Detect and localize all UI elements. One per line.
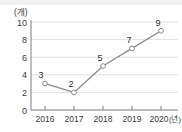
y-tick-label-8: 8 xyxy=(22,35,27,45)
data-label-2017: 2 xyxy=(68,79,73,89)
data-label-2020: 9 xyxy=(155,18,160,28)
y-axis-tick-labels: 10 8 6 4 2 0 xyxy=(17,18,27,116)
data-label-2018: 5 xyxy=(97,53,102,63)
data-point-2016[interactable] xyxy=(43,81,48,86)
chart-screenshot: (개) 10 8 6 4 2 0 2016 2017 2018 2019 202… xyxy=(0,0,182,132)
data-point-2019[interactable] xyxy=(130,46,135,51)
x-axis-unit-label: (년) xyxy=(169,114,181,124)
x-tick-label-2018: 2018 xyxy=(94,114,113,124)
x-tick-label-2016: 2016 xyxy=(36,114,55,124)
y-axis-unit-label-group: (개) xyxy=(14,7,28,17)
x-tick-label-2019: 2019 xyxy=(123,114,142,124)
y-tick-label-10: 10 xyxy=(17,18,27,28)
data-point-labels: 3 2 5 7 9 xyxy=(38,18,160,90)
grid-lines xyxy=(31,22,178,92)
data-label-2019: 7 xyxy=(126,35,131,45)
y-tick-label-2: 2 xyxy=(22,88,27,98)
y-axis-unit-label: (개) xyxy=(14,7,28,17)
x-axis-tick-labels: 2016 2017 2018 2019 2020 (년) xyxy=(36,114,182,124)
data-point-markers xyxy=(43,28,164,94)
y-tick-label-0: 0 xyxy=(22,106,27,116)
data-label-2016: 3 xyxy=(38,70,43,80)
y-tick-label-4: 4 xyxy=(22,70,27,80)
x-tick-label-2017: 2017 xyxy=(65,114,84,124)
x-tick-label-2020: 2020 xyxy=(150,114,169,124)
x-axis-ticks xyxy=(45,106,161,110)
data-point-2020[interactable] xyxy=(159,28,164,33)
data-point-2018[interactable] xyxy=(101,64,106,69)
y-tick-label-6: 6 xyxy=(22,53,27,63)
line-chart: (개) 10 8 6 4 2 0 2016 2017 2018 2019 202… xyxy=(0,0,182,132)
data-point-2017[interactable] xyxy=(72,90,77,95)
